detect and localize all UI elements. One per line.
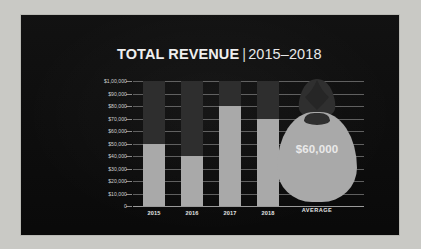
chart-panel: TOTAL REVENUE|2015–2018 $1,00,000$90,000… (20, 14, 400, 236)
x-axis-tick-label: 2015 (147, 210, 160, 216)
x-axis-tick-label: 2017 (223, 210, 236, 216)
money-bag-neck (304, 113, 330, 125)
y-axis-tick-label: $70,000 (108, 116, 127, 122)
y-axis-tick-label: $10,000 (108, 191, 127, 197)
y-axis-tick-label: $30,000 (108, 166, 127, 172)
bar-column: 2016 (181, 81, 203, 206)
x-axis-tick-label: 2016 (185, 210, 198, 216)
average-money-bag: $60,000 AVERAGE (269, 77, 365, 206)
bar-fill (219, 106, 241, 206)
y-axis-tick-label: 0 (124, 203, 127, 209)
bar-fill (181, 156, 203, 206)
y-axis-tick-label: $20,000 (108, 178, 127, 184)
bar-fill (143, 144, 165, 207)
chart-title-separator: | (242, 46, 246, 62)
y-axis-tick-label: $40,000 (108, 153, 127, 159)
bar-column: 2015 (143, 81, 165, 206)
average-value-label: $60,000 (296, 143, 338, 155)
y-axis-tick-label: $80,000 (108, 103, 127, 109)
chart-title: TOTAL REVENUE|2015–2018 (117, 46, 322, 62)
bar-column: 2017 (219, 81, 241, 206)
y-axis-tick-label: $90,000 (108, 91, 127, 97)
y-axis-tick-label: $60,000 (108, 128, 127, 134)
y-axis-labels: $1,00,000$90,000$80,000$70,000$60,000$50… (83, 81, 127, 206)
money-bag-body (277, 112, 357, 202)
y-axis-tick-label: $1,00,000 (104, 78, 127, 84)
slide-canvas: TOTAL REVENUE|2015–2018 $1,00,000$90,000… (0, 0, 421, 249)
x-axis-tick-label: 2018 (261, 210, 274, 216)
average-category-label: AVERAGE (302, 207, 332, 213)
chart-title-main: TOTAL REVENUE (117, 46, 239, 62)
y-axis-tick-label: $50,000 (108, 141, 127, 147)
chart-title-years: 2015–2018 (248, 46, 321, 62)
